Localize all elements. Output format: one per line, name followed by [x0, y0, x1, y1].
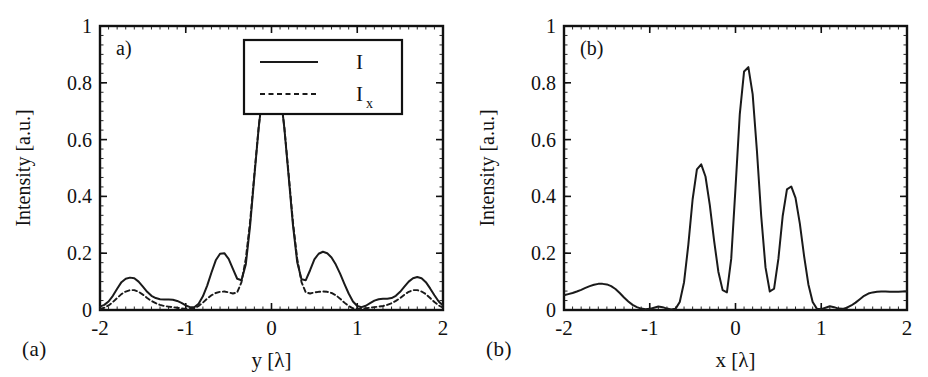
svg-text:y [λ]: y [λ]	[252, 348, 292, 372]
svg-text:0.2: 0.2	[67, 242, 92, 264]
svg-text:(b): (b)	[580, 37, 603, 60]
svg-text:0.4: 0.4	[531, 185, 556, 207]
svg-text:1: 1	[82, 15, 92, 37]
svg-text:-2: -2	[555, 316, 573, 340]
svg-text:Intensity [a.u.]: Intensity [a.u.]	[12, 109, 35, 226]
panel-a: -2-101200.20.40.60.81y [λ]Intensity [a.u…	[0, 0, 464, 377]
figure-container: -2-101200.20.40.60.81y [λ]Intensity [a.u…	[0, 0, 928, 377]
svg-text:-2: -2	[91, 316, 109, 340]
panel-b: -2-101200.20.40.60.81x [λ]Intensity [a.u…	[464, 0, 928, 377]
svg-text:0: 0	[266, 316, 277, 340]
plot-a-svg: -2-101200.20.40.60.81y [λ]Intensity [a.u…	[0, 0, 464, 377]
svg-text:-1: -1	[641, 316, 659, 340]
svg-text:0.8: 0.8	[531, 72, 556, 94]
svg-text:0.2: 0.2	[531, 242, 556, 264]
svg-text:a): a)	[116, 37, 132, 60]
panel-b-caption: (b)	[486, 337, 512, 362]
svg-text:1: 1	[546, 15, 556, 37]
svg-text:2: 2	[902, 316, 913, 340]
svg-text:x [λ]: x [λ]	[716, 348, 756, 372]
svg-text:0: 0	[730, 316, 741, 340]
svg-text:0: 0	[82, 299, 92, 321]
plot-b-svg: -2-101200.20.40.60.81x [λ]Intensity [a.u…	[464, 0, 928, 377]
svg-text:Intensity [a.u.]: Intensity [a.u.]	[476, 109, 499, 226]
svg-text:x: x	[366, 96, 373, 111]
svg-text:1: 1	[352, 316, 363, 340]
svg-text:0.8: 0.8	[67, 72, 92, 94]
panel-a-caption: (a)	[22, 337, 47, 362]
svg-text:0.4: 0.4	[67, 185, 92, 207]
svg-text:I: I	[356, 82, 363, 106]
svg-text:2: 2	[438, 316, 449, 340]
svg-text:0.6: 0.6	[67, 129, 92, 151]
svg-text:I: I	[356, 50, 363, 74]
svg-text:1: 1	[816, 316, 827, 340]
svg-text:0: 0	[546, 299, 556, 321]
svg-text:-1: -1	[177, 316, 195, 340]
svg-text:0.6: 0.6	[531, 129, 556, 151]
